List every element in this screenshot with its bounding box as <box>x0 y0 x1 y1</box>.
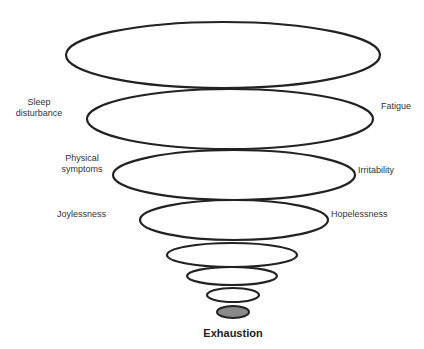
label-irritability: Irritability <box>358 165 394 176</box>
label-joylessness: Joylessness <box>57 209 106 220</box>
ellipse-level-5 <box>167 243 297 267</box>
label-line: disturbance <box>2 108 76 119</box>
ellipse-level-1 <box>66 22 380 88</box>
label-sleep-disturbance: Sleep disturbance <box>2 97 76 119</box>
ellipse-level-6 <box>187 267 277 285</box>
label-line: symptoms <box>52 164 112 175</box>
ellipse-exhaustion <box>217 306 249 318</box>
ellipse-level-4 <box>140 200 328 240</box>
label-fatigue: Fatigue <box>381 101 411 112</box>
label-line: Physical <box>52 153 112 164</box>
ellipse-level-3 <box>113 150 355 200</box>
ellipse-level-2 <box>87 89 373 149</box>
label-physical-symptoms: Physical symptoms <box>52 153 112 175</box>
label-exhaustion: Exhaustion <box>193 327 273 339</box>
label-line: Sleep <box>2 97 76 108</box>
ellipse-level-7 <box>207 288 259 302</box>
label-hopelessness: Hopelessness <box>331 209 388 220</box>
